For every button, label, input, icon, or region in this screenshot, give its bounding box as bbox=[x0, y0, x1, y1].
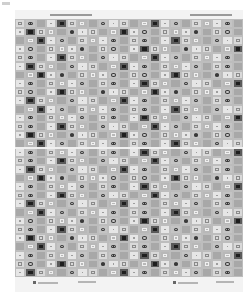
pattern-tile bbox=[181, 217, 191, 226]
square-motif-icon bbox=[70, 194, 74, 197]
circle-cross-motif-icon bbox=[194, 99, 198, 102]
circle-cross-motif-icon bbox=[111, 73, 115, 76]
dot-motif-icon bbox=[133, 169, 135, 170]
square-motif-icon bbox=[111, 65, 115, 68]
pattern-tile bbox=[150, 174, 160, 183]
pattern-tile bbox=[98, 131, 108, 140]
square-motif-icon bbox=[80, 73, 84, 76]
pattern-tile bbox=[191, 71, 201, 80]
solid-square-motif-icon bbox=[174, 176, 178, 179]
pattern-tile bbox=[36, 234, 46, 243]
circle-cross-motif-icon bbox=[174, 159, 178, 162]
solid-square-motif-icon bbox=[60, 194, 64, 197]
dot-motif-icon bbox=[82, 31, 84, 32]
pattern-tile bbox=[181, 36, 191, 45]
dot-motif-icon bbox=[196, 83, 198, 84]
square-motif-icon bbox=[205, 56, 209, 59]
pattern-tile bbox=[181, 19, 191, 28]
pattern-tile bbox=[119, 36, 129, 45]
circle-cross-motif-icon bbox=[225, 236, 229, 239]
pattern-tile bbox=[233, 96, 243, 105]
pattern-tile bbox=[181, 114, 191, 123]
bottom-selvedge-text bbox=[216, 281, 234, 283]
dot-motif-icon bbox=[216, 57, 218, 58]
pattern-tile bbox=[56, 105, 66, 114]
pattern-tile bbox=[119, 105, 129, 114]
solid-square-motif-icon bbox=[122, 168, 126, 171]
pattern-tile bbox=[139, 88, 149, 97]
pattern-tile bbox=[88, 260, 98, 269]
stripe-motif bbox=[60, 271, 64, 274]
circle-cross-motif-icon bbox=[194, 168, 198, 171]
solid-square-motif-icon bbox=[142, 254, 146, 257]
stripe-motif bbox=[153, 39, 157, 42]
square-motif-icon bbox=[122, 194, 126, 197]
pattern-tile bbox=[160, 28, 170, 37]
square-motif-icon bbox=[28, 245, 32, 248]
dot-motif-icon bbox=[164, 177, 166, 178]
dot-motif-icon bbox=[71, 152, 73, 153]
pattern-tile bbox=[170, 53, 180, 62]
pattern-tile bbox=[15, 148, 25, 157]
pattern-tile bbox=[119, 242, 129, 251]
pattern-tile bbox=[160, 157, 170, 166]
pattern-tile bbox=[108, 225, 118, 234]
pattern-tile bbox=[170, 260, 180, 269]
stripe-motif bbox=[60, 236, 64, 239]
pattern-tile bbox=[170, 88, 180, 97]
square-motif-icon bbox=[39, 202, 43, 205]
pattern-tile bbox=[67, 199, 77, 208]
square-motif-icon bbox=[49, 47, 53, 50]
pattern-tile bbox=[150, 53, 160, 62]
pattern-tile bbox=[88, 165, 98, 174]
circle-cross-motif-icon bbox=[174, 90, 178, 93]
pattern-tile bbox=[191, 234, 201, 243]
stripe-motif bbox=[153, 108, 157, 111]
stripe-motif bbox=[91, 159, 95, 162]
pattern-tile bbox=[77, 45, 87, 54]
square-motif-icon bbox=[236, 73, 240, 76]
pattern-tile bbox=[150, 148, 160, 157]
pattern-tile bbox=[119, 88, 129, 97]
square-motif-icon bbox=[174, 168, 178, 171]
pattern-tile bbox=[67, 105, 77, 114]
solid-square-motif-icon bbox=[122, 65, 126, 68]
square-motif-icon bbox=[194, 125, 198, 128]
pattern-tile bbox=[202, 105, 212, 114]
pattern-tile bbox=[67, 19, 77, 28]
circle-cross-motif-icon bbox=[142, 168, 146, 171]
dot-motif-icon bbox=[19, 31, 21, 32]
pattern-tile bbox=[129, 225, 139, 234]
square-motif-icon bbox=[153, 47, 157, 50]
pattern-tile bbox=[160, 96, 170, 105]
square-motif-icon bbox=[205, 116, 209, 119]
pattern-tile bbox=[233, 225, 243, 234]
pattern-tile bbox=[77, 165, 87, 174]
pattern-tile bbox=[129, 148, 139, 157]
dot-motif-icon bbox=[185, 31, 187, 32]
pattern-tile bbox=[233, 242, 243, 251]
square-motif-icon bbox=[163, 65, 167, 68]
pattern-tile bbox=[119, 217, 129, 226]
pattern-tile bbox=[36, 148, 46, 157]
pattern-tile bbox=[139, 225, 149, 234]
circle-cross-motif-icon bbox=[142, 202, 146, 205]
pattern-tile bbox=[88, 122, 98, 131]
pattern-tile bbox=[88, 53, 98, 62]
square-motif-icon bbox=[60, 116, 64, 119]
pattern-tile bbox=[88, 191, 98, 200]
pattern-tile bbox=[191, 45, 201, 54]
stripe-motif bbox=[91, 47, 95, 50]
circle-cross-motif-icon bbox=[80, 185, 84, 188]
pattern-tile bbox=[119, 122, 129, 131]
dot-motif-icon bbox=[164, 143, 166, 144]
pattern-tile bbox=[77, 79, 87, 88]
dot-motif-icon bbox=[82, 237, 84, 238]
stripe-motif bbox=[205, 142, 209, 145]
pattern-tile bbox=[181, 251, 191, 260]
circle-cross-motif-icon bbox=[101, 262, 105, 265]
pattern-tile bbox=[77, 234, 87, 243]
stripe-motif bbox=[101, 133, 105, 136]
pattern-tile bbox=[36, 199, 46, 208]
square-motif-icon bbox=[91, 73, 95, 76]
